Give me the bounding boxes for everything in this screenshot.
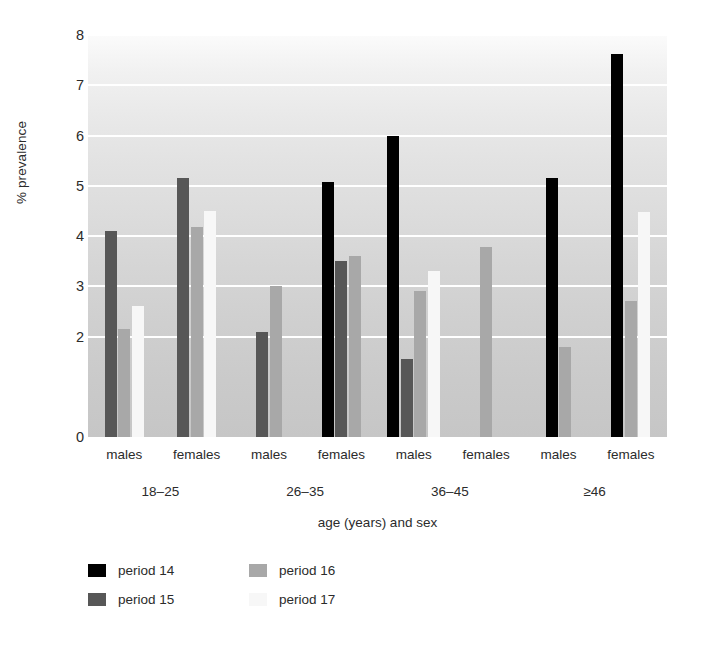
y-axis-tick-labels: 02345678 — [48, 28, 84, 440]
bar — [480, 247, 492, 437]
bar — [625, 301, 637, 437]
legend-swatch-icon — [88, 564, 106, 577]
x-axis-sex-label: females — [607, 447, 654, 462]
legend-item[interactable]: period 16 — [249, 560, 335, 580]
bar — [559, 347, 571, 437]
bar — [349, 256, 361, 437]
bar — [611, 54, 623, 437]
y-axis-tick-label: 8 — [48, 28, 84, 43]
legend-label: period 16 — [279, 563, 335, 578]
x-axis-sex-label: males — [106, 447, 142, 462]
bar — [191, 227, 203, 437]
x-axis-sex-label: females — [173, 447, 220, 462]
y-axis-tick-label: 3 — [48, 279, 84, 294]
y-axis-title: % prevalence — [14, 44, 36, 204]
y-axis-tick-label: 7 — [48, 78, 84, 93]
x-axis-sex-labels: malesfemalesmalesfemalesmalesfemalesmale… — [88, 447, 667, 467]
y-axis-tick-label: 5 — [48, 179, 84, 194]
bar — [177, 178, 189, 437]
legend: period 14period 16period 15period 17 — [88, 560, 508, 620]
bar — [256, 332, 268, 437]
bar — [428, 271, 440, 437]
x-axis-sex-label: males — [396, 447, 432, 462]
bar — [401, 359, 413, 437]
x-axis-title: age (years) and sex — [88, 515, 667, 530]
bar — [387, 136, 399, 438]
x-axis-age-group-label: 26–35 — [286, 484, 324, 499]
y-axis-tick-label: 2 — [48, 329, 84, 344]
bar — [638, 212, 650, 437]
legend-item[interactable]: period 14 — [88, 560, 174, 580]
x-axis-age-group-labels: 18–2526–3536–45≥46 — [88, 484, 667, 504]
legend-item[interactable]: period 15 — [88, 589, 174, 609]
x-axis-age-group-label: 18–25 — [142, 484, 180, 499]
x-axis-sex-label: females — [462, 447, 509, 462]
legend-item[interactable]: period 17 — [249, 589, 335, 609]
bar — [118, 329, 130, 437]
legend-swatch-icon — [249, 593, 267, 606]
y-axis-tick-label: 0 — [48, 430, 84, 445]
legend-swatch-icon — [249, 564, 267, 577]
plot-area — [88, 35, 667, 437]
x-axis-age-group-label: 36–45 — [431, 484, 469, 499]
bar-chart-figure: % prevalence 02345678 malesfemalesmalesf… — [0, 0, 707, 649]
legend-label: period 15 — [118, 592, 174, 607]
y-axis-tick-label: 4 — [48, 229, 84, 244]
bars-container — [88, 35, 667, 437]
y-axis-tick-label: 6 — [48, 128, 84, 143]
x-axis-sex-label: males — [251, 447, 287, 462]
x-axis-sex-label: females — [318, 447, 365, 462]
legend-label: period 14 — [118, 563, 174, 578]
bar — [270, 286, 282, 437]
bar — [546, 178, 558, 437]
x-axis-age-group-label: ≥46 — [583, 484, 605, 499]
legend-label: period 17 — [279, 592, 335, 607]
bar — [204, 211, 216, 437]
bar — [105, 231, 117, 437]
bar — [132, 306, 144, 437]
x-axis-sex-label: males — [540, 447, 576, 462]
bar — [335, 261, 347, 437]
legend-swatch-icon — [88, 593, 106, 606]
bar — [414, 291, 426, 437]
bar — [322, 182, 334, 437]
